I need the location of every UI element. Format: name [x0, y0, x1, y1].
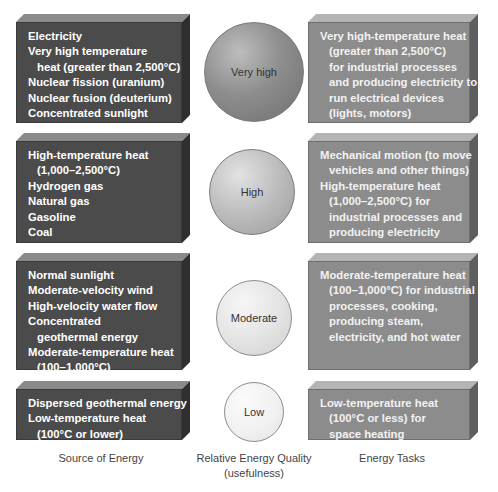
box-top-bevel [308, 133, 478, 141]
task-item: High-temperature heat [320, 179, 469, 194]
box-front-face: Low-temperature heat(100°C or less) fors… [308, 389, 470, 440]
quality-label: Very high [231, 66, 277, 78]
energy-task-box: Mechanical motion (to movevehicles and o… [308, 133, 478, 243]
energy-source-box: High-temperature heat(1,000–2,500°C)Hydr… [16, 133, 190, 243]
source-item: geothermal energy [28, 330, 181, 345]
energy-source-box: ElectricityVery high temperatureheat (gr… [16, 14, 190, 123]
box-top-bevel [308, 381, 478, 389]
column-label-quality: Relative Energy Quality (usefulness) [184, 451, 324, 481]
source-item: Moderate-velocity wind [28, 283, 181, 298]
task-item: electricity, and hot water [320, 330, 469, 345]
source-item: Nuclear fusion (deuterium) [28, 91, 181, 106]
task-item: Moderate-temperature heat [320, 268, 469, 283]
quality-sphere-very-high: Very high [204, 22, 304, 122]
quality-label: Low [244, 406, 264, 418]
box-top-bevel [16, 133, 190, 141]
task-item: and producing electricity to [320, 75, 469, 90]
box-side-bevel [182, 381, 190, 440]
source-item: Natural gas [28, 194, 181, 209]
source-item: (1,000–2,500°C) [28, 163, 181, 178]
box-front-face: Very high-temperature heat(greater than … [308, 22, 470, 123]
column-label-quality-line2: (usefulness) [224, 467, 284, 479]
box-side-bevel [470, 253, 478, 370]
energy-task-box: Very high-temperature heat(greater than … [308, 14, 478, 123]
box-side-bevel [470, 381, 478, 440]
task-item: vehicles and other things) [320, 163, 469, 178]
box-side-bevel [182, 14, 190, 123]
energy-task-box: Moderate-temperature heat(100–1,000°C) f… [308, 253, 478, 370]
source-item: Concentrated sunlight [28, 106, 181, 121]
box-front-face: Moderate-temperature heat(100–1,000°C) f… [308, 261, 470, 370]
quality-sphere-moderate: Moderate [216, 280, 292, 356]
box-front-face: Normal sunlightModerate-velocity windHig… [16, 261, 182, 370]
source-item: Very high temperature [28, 44, 181, 59]
source-item: Dispersed geothermal energy [28, 396, 181, 411]
task-item: producing steam, [320, 314, 469, 329]
task-item: for industrial processes [320, 60, 469, 75]
quality-label: High [241, 186, 264, 198]
source-item: Normal sunlight [28, 268, 181, 283]
source-item: (100–1,000°C) [28, 360, 181, 375]
task-item: Mechanical motion (to move [320, 148, 469, 163]
task-item: (1,000–2,500°C) for [320, 194, 469, 209]
column-label-tasks: Energy Tasks [308, 451, 476, 466]
source-item: Coal [28, 225, 181, 240]
task-item: (lights, motors) [320, 106, 469, 121]
box-front-face: ElectricityVery high temperatureheat (gr… [16, 22, 182, 123]
box-top-bevel [308, 14, 478, 22]
task-item: (100–1,000°C) for industrial [320, 283, 469, 298]
source-item: High-temperature heat [28, 148, 181, 163]
task-item: run electrical devices [320, 91, 469, 106]
source-item: Concentrated [28, 314, 181, 329]
column-label-quality-line1: Relative Energy Quality [197, 452, 312, 464]
quality-sphere-low: Low [224, 382, 284, 442]
quality-label: Moderate [231, 312, 277, 324]
box-top-bevel [16, 14, 190, 22]
box-top-bevel [16, 381, 190, 389]
column-label-source: Source of Energy [16, 451, 186, 466]
source-item: Low-temperature heat [28, 411, 181, 426]
task-item: Very high-temperature heat [320, 29, 469, 44]
box-side-bevel [182, 133, 190, 243]
source-item: Gasoline [28, 210, 181, 225]
task-item: (greater than 2,500°C) [320, 44, 469, 59]
source-item: Moderate-temperature heat [28, 345, 181, 360]
source-item: Electricity [28, 29, 181, 44]
energy-source-box: Normal sunlightModerate-velocity windHig… [16, 253, 190, 370]
energy-source-box: Dispersed geothermal energyLow-temperatu… [16, 381, 190, 440]
box-side-bevel [182, 253, 190, 370]
source-item: (100°C or lower) [28, 427, 181, 442]
task-item: processes, cooking, [320, 299, 469, 314]
task-item: space heating [320, 427, 469, 442]
task-item: producing electricity [320, 225, 469, 240]
task-item: (100°C or less) for [320, 411, 469, 426]
source-item: Nuclear fission (uranium) [28, 75, 181, 90]
box-front-face: Mechanical motion (to movevehicles and o… [308, 141, 470, 243]
source-item: Hydrogen gas [28, 179, 181, 194]
source-item: High-velocity water flow [28, 299, 181, 314]
source-item: heat (greater than 2,500°C) [28, 60, 181, 75]
box-top-bevel [16, 253, 190, 261]
box-front-face: High-temperature heat(1,000–2,500°C)Hydr… [16, 141, 182, 243]
energy-task-box: Low-temperature heat(100°C or less) fors… [308, 381, 478, 440]
box-top-bevel [308, 253, 478, 261]
task-item: industrial processes and [320, 210, 469, 225]
box-front-face: Dispersed geothermal energyLow-temperatu… [16, 389, 182, 440]
box-side-bevel [470, 14, 478, 123]
quality-sphere-high: High [209, 149, 295, 235]
task-item: Low-temperature heat [320, 396, 469, 411]
